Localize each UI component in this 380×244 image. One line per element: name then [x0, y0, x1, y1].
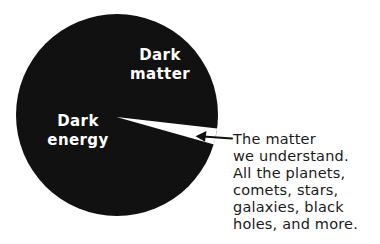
pie-slice-dark-sectors: [16, 14, 218, 216]
callout-text-line-1: The matter: [232, 131, 316, 147]
pie-label-dark-energy-line2: energy: [47, 131, 108, 149]
callout-text-line-5: galaxies, black: [233, 199, 344, 215]
pie-label-dark-energy-line1: Dark: [57, 112, 99, 130]
pie-label-dark-matter-line2: matter: [130, 65, 190, 83]
callout-text-line-3: All the planets,: [233, 165, 345, 181]
callout-text-line-6: holes, and more.: [233, 216, 358, 232]
pie-chart-figure: Dark matter Dark energy The matter we un…: [0, 0, 380, 244]
callout-text-line-4: comets, stars,: [233, 182, 338, 198]
universe-composition-pie-chart: Dark matter Dark energy The matter we un…: [0, 0, 380, 244]
callout-text-line-2: we understand.: [233, 148, 349, 164]
pie-label-dark-matter-line1: Dark: [139, 46, 181, 64]
